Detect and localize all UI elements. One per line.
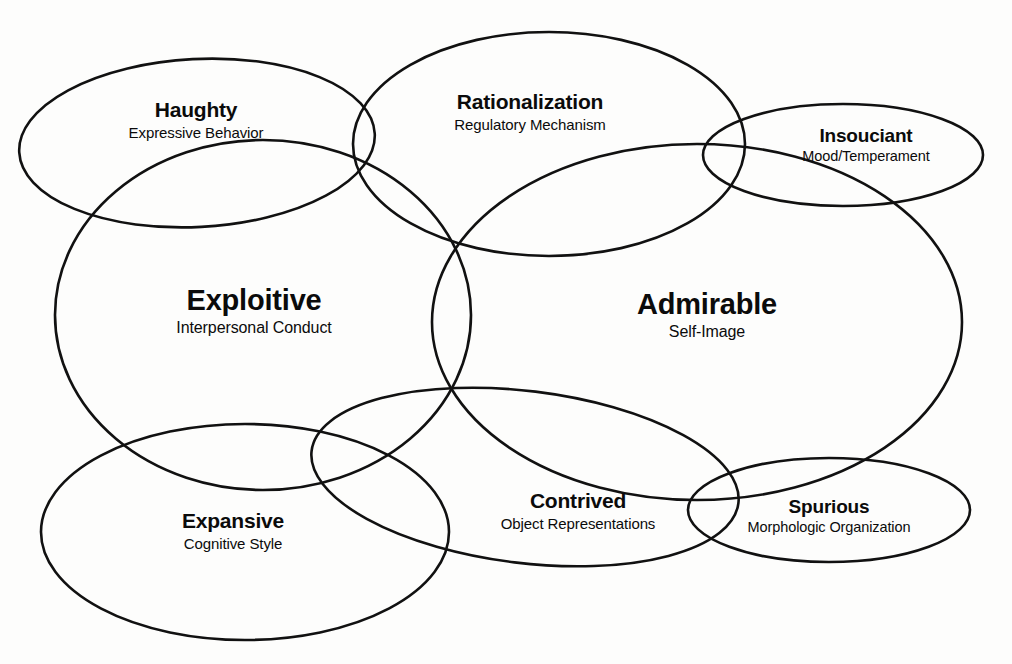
ellipse-admirable — [432, 144, 962, 500]
ellipse-spurious — [688, 458, 970, 562]
venn-ellipses-canvas — [0, 0, 1012, 664]
ellipse-contrived — [301, 365, 749, 588]
ellipse-exploitive — [55, 140, 471, 490]
ellipse-haughty — [15, 50, 379, 236]
venn-diagram: HaughtyExpressive BehaviorRationalizatio… — [0, 0, 1012, 664]
